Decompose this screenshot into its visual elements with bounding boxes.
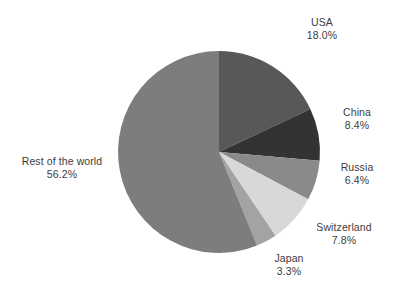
pie-label-russia-name: Russia	[326, 161, 388, 174]
pie-label-china: China 8.4%	[326, 106, 388, 132]
pie-label-japan-name: Japan	[258, 252, 320, 265]
pie-label-china-name: China	[326, 106, 388, 119]
pie-chart-canvas	[0, 0, 394, 294]
pie-label-japan-value: 3.3%	[258, 265, 320, 278]
pie-label-japan: Japan 3.3%	[258, 252, 320, 278]
pie-label-russia: Russia 6.4%	[326, 161, 388, 187]
pie-label-rest-of-the-world: Rest of the world 56.2%	[6, 155, 118, 181]
pie-label-switzerland-name: Switzerland	[298, 221, 390, 234]
pie-label-china-value: 8.4%	[326, 119, 388, 132]
pie-label-rest-name: Rest of the world	[6, 155, 118, 168]
pie-label-switzerland-value: 7.8%	[298, 234, 390, 247]
pie-slice-group	[118, 51, 320, 253]
pie-label-usa-name: USA	[286, 16, 358, 29]
pie-label-russia-value: 6.4%	[326, 174, 388, 187]
pie-chart: USA 18.0% China 8.4% Russia 6.4% Switzer…	[0, 0, 394, 294]
pie-label-usa-value: 18.0%	[286, 29, 358, 42]
pie-label-rest-value: 56.2%	[6, 168, 118, 181]
pie-label-usa: USA 18.0%	[286, 16, 358, 42]
pie-label-switzerland: Switzerland 7.8%	[298, 221, 390, 247]
